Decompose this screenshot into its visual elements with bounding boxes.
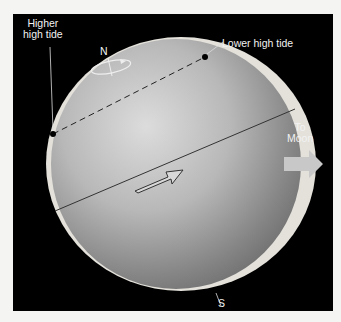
north-pole-label: N bbox=[100, 46, 108, 57]
to-moon-label: To Moon bbox=[287, 122, 313, 144]
lower-high-tide-label: Lower high tide bbox=[222, 38, 293, 49]
higher-tide-leader bbox=[50, 47, 53, 130]
to-moon-line2: Moon bbox=[287, 133, 313, 144]
higher-high-tide-line2: high tide bbox=[23, 29, 63, 40]
south-pole-label: S bbox=[218, 298, 225, 309]
higher-high-tide-label: Higher high tide bbox=[23, 18, 63, 40]
earth-globe bbox=[51, 39, 301, 289]
earth-tide-diagram bbox=[13, 14, 333, 311]
diagram-frame: Higher high tide Lower high tide N S To … bbox=[13, 14, 333, 311]
higher-high-tide-point bbox=[50, 131, 56, 137]
lower-high-tide-point bbox=[202, 54, 208, 60]
